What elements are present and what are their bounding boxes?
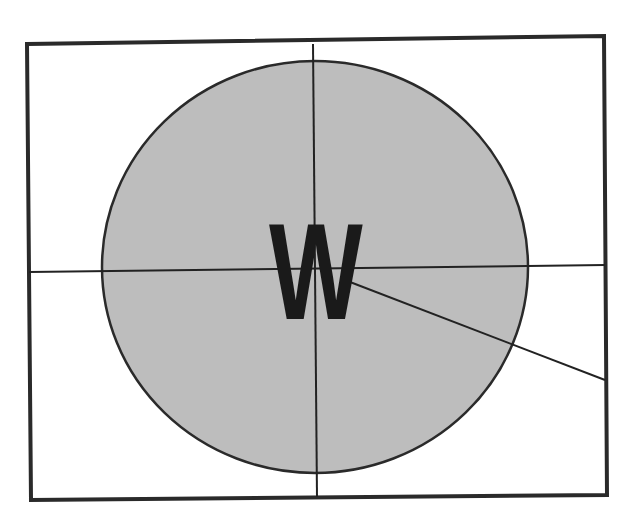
compass-diagram: W: [0, 0, 634, 521]
diagram-canvas: W: [0, 0, 634, 521]
w-letter-label: W: [269, 194, 363, 348]
